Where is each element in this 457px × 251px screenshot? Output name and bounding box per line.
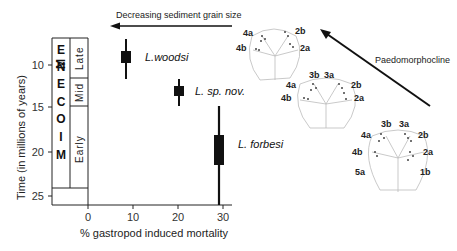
urchin3-4b: 4b [352,147,363,157]
y-axis-label: Time (in millions of years) [15,75,27,200]
x-tick-10: 10 [127,211,139,223]
series-l-forbesi [214,106,224,205]
svg-text:O: O [56,112,65,126]
svg-text:N: N [57,60,66,74]
label-l-forbesi: L. forbesi [238,138,284,150]
urchin3-2a: 2a [423,147,434,157]
svg-text:I: I [59,130,62,144]
urchin1-4b: 4b [236,43,247,53]
paedomorphocline-label: Paedomorphocline [375,55,450,65]
stage-mid: Mid [74,83,85,102]
x-tick-0: 0 [85,211,91,223]
series-l-sp-nov [174,79,184,106]
svg-text:M: M [56,148,66,162]
grain-size-label: Decreasing sediment grain size [116,10,242,20]
stage-early: Early [74,135,85,163]
urchin3-3a: 3a [399,119,410,129]
urchin2-2b: 2b [351,80,362,90]
urchin3-5a: 5a [355,167,366,177]
x-tick-30: 30 [217,211,229,223]
y-tick-20: 20 [32,146,44,158]
urchin2-3b: 3b [309,70,320,80]
urchin3-1b: 1b [420,167,431,177]
y-tick-25: 25 [32,190,44,202]
urchin-pores-2 [303,83,347,100]
urchin2-3a: 3a [324,70,335,80]
svg-text:C: C [57,95,66,109]
chart-canvas: Decreasing sediment grain size 10 15 20 … [0,0,457,251]
y-tick-10: 10 [32,59,44,71]
label-l-woodsi: L.woodsi [145,51,189,63]
grain-size-arrow [110,23,232,30]
svg-text:E: E [57,43,65,57]
label-l-sp-nov: L. sp. nov. [195,85,245,97]
urchin1-2a: 2a [300,43,311,53]
urchin3-4a: 4a [361,130,372,140]
y-tick-15: 15 [32,101,44,113]
urchin2-2a: 2a [354,93,365,103]
paedomorphocline-arrow [320,29,430,106]
urchin2-4a: 4a [286,80,297,90]
epoch-label: M I O C E N E [56,43,66,162]
urchin3-3b: 3b [381,119,392,129]
urchin-diagram-2 [298,78,356,128]
urchin1-4a: 4a [243,28,254,38]
urchin3-2b: 2b [418,130,429,140]
urchin-diagram-1 [249,29,300,80]
svg-text:E: E [57,77,65,91]
x-tick-20: 20 [172,211,184,223]
stage-late: Late [74,47,85,70]
urchin-pores-1 [255,31,294,51]
urchin1-2b: 2b [295,26,306,36]
x-axis-label: % gastropod induced mortality [80,227,228,239]
urchin2-4b: 4b [281,93,292,103]
series-l-woodsi [121,39,131,79]
